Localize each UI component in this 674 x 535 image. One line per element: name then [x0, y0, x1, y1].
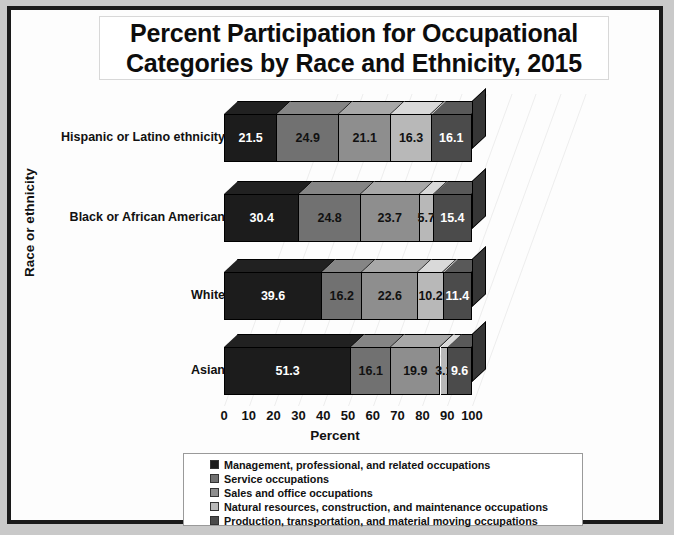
- x-axis-tick-labels: 0102030405060708090100: [11, 408, 659, 428]
- legend-label: Service occupations: [224, 473, 329, 485]
- y-axis-title: Race or ethnicity: [22, 143, 37, 303]
- bar-segment[interactable]: 24.8: [299, 194, 361, 242]
- legend-swatch: [210, 488, 219, 497]
- bar-segment-value: 39.6: [261, 289, 285, 303]
- bar-segment[interactable]: 16.2: [322, 272, 362, 320]
- legend-item[interactable]: Natural resources, construction, and mai…: [210, 500, 582, 514]
- bar-segment-value: 16.1: [439, 131, 463, 145]
- legend-swatch: [210, 502, 219, 511]
- bar-end-side-face: [472, 321, 486, 382]
- bar-segment[interactable]: 22.6: [362, 272, 418, 320]
- bar-segment-value: 15.4: [440, 211, 464, 225]
- bar-segment[interactable]: 9.6: [448, 347, 472, 395]
- category-label: Asian: [45, 363, 225, 377]
- bar-segment[interactable]: 5.7: [420, 194, 434, 242]
- bar-segment[interactable]: 15.4: [434, 194, 472, 242]
- x-axis-title: Percent: [11, 428, 659, 443]
- chart-title-line-2: Categories by Race and Ethnicity, 2015: [126, 48, 582, 78]
- chart-title-line-1: Percent Participation for Occupational: [130, 18, 578, 48]
- bar-segment-value: 24.9: [296, 131, 320, 145]
- bar-segment-value: 21.1: [353, 131, 377, 145]
- bar-segment-value: 24.8: [317, 211, 341, 225]
- bar-segment-value: 5.7: [418, 211, 435, 225]
- bar-segment-top-face: [224, 334, 365, 347]
- legend-item[interactable]: Service occupations: [210, 472, 582, 486]
- bar-segment[interactable]: 21.5: [224, 114, 277, 162]
- bar-segment-value: 51.3: [275, 364, 299, 378]
- bar-segment[interactable]: 23.7: [361, 194, 420, 242]
- bar-segment-top-face: [224, 259, 336, 272]
- category-label: White: [45, 288, 225, 302]
- legend-swatch: [210, 474, 219, 483]
- bar-segment[interactable]: 19.9: [391, 347, 440, 395]
- legend-label: Production, transportation, and material…: [224, 515, 538, 527]
- bar-segment-value: 21.5: [238, 131, 262, 145]
- category-label: Hispanic or Latino ethnicity: [45, 130, 225, 144]
- bar-segment[interactable]: 16.1: [432, 114, 472, 162]
- legend-item[interactable]: Management, professional, and related oc…: [210, 458, 582, 472]
- legend-label: Natural resources, construction, and mai…: [224, 501, 548, 513]
- bar-segment[interactable]: 39.6: [224, 272, 322, 320]
- bar-segment-value: 30.4: [250, 211, 274, 225]
- bar-end-side-face: [472, 88, 486, 149]
- legend-item[interactable]: Production, transportation, and material…: [210, 514, 582, 528]
- chart-frame: 21.524.921.116.316.130.424.823.75.715.43…: [7, 6, 663, 524]
- bar-segment-value: 16.1: [359, 364, 383, 378]
- bar-segment[interactable]: 24.9: [277, 114, 339, 162]
- category-label: Black or African American: [45, 210, 225, 224]
- bar-segment-value: 10.2: [418, 289, 442, 303]
- legend-label: Sales and office occupations: [224, 487, 373, 499]
- bar-segment-value: 22.6: [378, 289, 402, 303]
- chart-title: Percent Participation for Occupational C…: [99, 16, 609, 80]
- bar-segment[interactable]: 3.1: [441, 347, 449, 395]
- bar-segment-value: 11.4: [446, 289, 470, 303]
- bar-segment[interactable]: 21.1: [339, 114, 391, 162]
- bar-segment-value: 23.7: [378, 211, 402, 225]
- chart-legend: Management, professional, and related oc…: [183, 453, 583, 526]
- bar-segment-value: 16.3: [399, 131, 423, 145]
- legend-swatch: [210, 516, 219, 525]
- bar-segment[interactable]: 16.1: [351, 347, 391, 395]
- bar-segment[interactable]: 16.3: [391, 114, 431, 162]
- bar-end-side-face: [472, 168, 486, 229]
- bar-segment-value: 16.2: [330, 289, 354, 303]
- x-tick-label: 100: [452, 408, 492, 423]
- bar-segment-value: 9.6: [451, 364, 468, 378]
- bar-segment-value: 19.9: [403, 364, 427, 378]
- bar-segment[interactable]: 11.4: [444, 272, 472, 320]
- bar-end-side-face: [472, 246, 486, 307]
- chart-canvas: 21.524.921.116.316.130.424.823.75.715.43…: [11, 10, 659, 520]
- bar-segment[interactable]: 10.2: [418, 272, 443, 320]
- plot-area: 21.524.921.116.316.130.424.823.75.715.43…: [11, 10, 659, 520]
- bar-segment[interactable]: 51.3: [224, 347, 351, 395]
- legend-item[interactable]: Sales and office occupations: [210, 486, 582, 500]
- legend-label: Management, professional, and related oc…: [224, 459, 490, 471]
- bar-segment[interactable]: 30.4: [224, 194, 299, 242]
- legend-swatch: [210, 460, 219, 469]
